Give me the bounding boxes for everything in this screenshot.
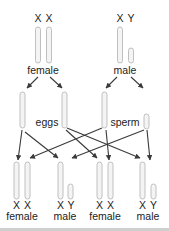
x-chromosome (36, 27, 41, 63)
x-chromosome (58, 162, 63, 199)
gamete-label: sperm (110, 116, 139, 128)
gamete-label: eggs (36, 116, 59, 128)
y-chromosome (151, 184, 156, 199)
offspring-sex-label: female (89, 210, 121, 222)
sperm-x-chromosome (102, 92, 107, 128)
y-chromosome (129, 48, 134, 63)
x-chromosome (14, 162, 19, 199)
chromosome-label: X (45, 12, 52, 24)
arrow-icon (131, 77, 143, 88)
fertilization-arrows (18, 128, 150, 160)
chromosome-label: X (116, 12, 123, 24)
x-chromosome (108, 162, 113, 199)
bottom-divider (0, 228, 169, 231)
offspring-4: X Y male (137, 162, 160, 222)
x-chromosome (140, 162, 145, 199)
offspring-3: X X female (89, 162, 121, 222)
arrow-icon (67, 128, 140, 158)
sperm-y-chromosome (144, 114, 149, 129)
egg-x-chromosome (62, 92, 67, 128)
parent-label: male (114, 64, 137, 76)
offspring-sex-label: male (137, 210, 160, 222)
chromosome-label: X (34, 12, 41, 24)
offspring-1: X X female (6, 162, 38, 222)
gametes-eggs: eggs (20, 92, 67, 128)
inheritance-diagram: X X female X Y male eggs sperm (0, 0, 169, 231)
arrow-icon (18, 130, 22, 160)
arrow-icon (27, 77, 38, 88)
offspring-2: X Y male (54, 162, 77, 222)
x-chromosome (25, 162, 30, 199)
chromosome-label: Y (127, 12, 134, 24)
parent-female: X X female (27, 12, 59, 76)
x-chromosome (118, 27, 123, 63)
meiosis-arrows (27, 77, 143, 88)
arrow-icon (106, 77, 117, 88)
x-chromosome (97, 162, 102, 199)
offspring-sex-label: male (54, 210, 77, 222)
egg-x-chromosome (20, 92, 25, 128)
arrow-icon (50, 77, 62, 88)
offspring-sex-label: female (6, 210, 38, 222)
arrow-icon (147, 130, 150, 160)
parent-label: female (27, 64, 59, 76)
x-chromosome (47, 27, 52, 63)
parent-male: X Y male (114, 12, 137, 76)
gametes-sperm: sperm (102, 92, 149, 129)
y-chromosome (68, 184, 73, 199)
arrow-icon (25, 132, 58, 158)
